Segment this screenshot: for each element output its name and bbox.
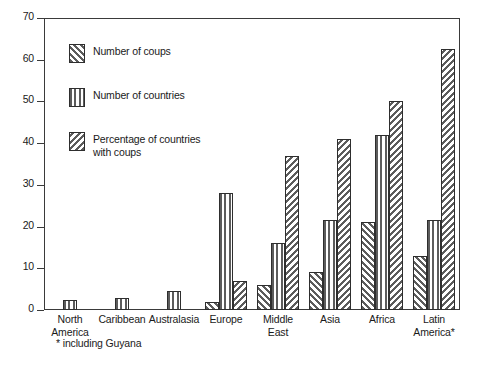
legend-swatch-forward-diagonal: [69, 44, 85, 63]
legend-label: Number of coups: [93, 45, 171, 58]
y-axis-tick-label: 20: [23, 220, 34, 231]
y-axis-tick-mark: [37, 227, 44, 228]
bar: [427, 220, 441, 310]
x-axis-label: Asia: [304, 313, 356, 326]
bar: [323, 220, 337, 310]
y-axis-tick-mark: [37, 268, 44, 269]
x-axis-label: North America: [44, 313, 96, 338]
bar: [309, 272, 323, 310]
y-axis-tick-mark: [37, 143, 44, 144]
legend-swatch-backward-diagonal: [69, 132, 85, 151]
y-axis-tick-mark: [37, 60, 44, 61]
bar: [361, 222, 375, 310]
bar-group: [309, 18, 351, 310]
y-axis-tick-mark: [37, 101, 44, 102]
bar: [167, 291, 181, 310]
y-axis-tick-mark: [37, 18, 44, 19]
y-axis-tick-label: 30: [23, 178, 34, 189]
bar: [115, 298, 129, 311]
x-axis-label: Africa: [356, 313, 408, 326]
y-axis-tick-label: 60: [23, 53, 34, 64]
x-axis-label: Caribbean: [96, 313, 148, 326]
bar: [233, 281, 247, 310]
bar-group: [413, 18, 455, 310]
y-axis-tick-label: 0: [28, 303, 34, 314]
x-axis-label: Europe: [200, 313, 252, 326]
x-axis-label: Middle East: [252, 313, 304, 338]
bar: [375, 135, 389, 310]
legend-label: Percentage of countries with coups: [93, 133, 200, 158]
bar: [389, 101, 403, 310]
y-axis-tick-label: 40: [23, 136, 34, 147]
legend-item: Percentage of countries with coups: [69, 132, 259, 154]
y-axis-tick-mark: [37, 185, 44, 186]
bar: [441, 49, 455, 310]
bar: [219, 193, 233, 310]
x-axis-label: Latin America*: [408, 313, 460, 338]
chart-legend: Number of coupsNumber of countriesPercen…: [69, 44, 259, 176]
legend-item: Number of countries: [69, 88, 259, 110]
y-axis-tick-label: 10: [23, 261, 34, 272]
legend-label: Number of countries: [93, 89, 185, 102]
bar-group: [361, 18, 403, 310]
bar: [63, 300, 77, 310]
chart-footnote: * including Guyana: [56, 337, 141, 349]
bar: [205, 302, 219, 310]
bar-group: [257, 18, 299, 310]
x-axis-label: Australasia: [148, 313, 200, 326]
bar: [271, 243, 285, 310]
legend-swatch-vertical-stripes: [69, 88, 85, 107]
bar: [285, 156, 299, 310]
y-axis-tick-label: 50: [23, 94, 34, 105]
bar: [257, 285, 271, 310]
bar: [413, 256, 427, 310]
bar: [337, 139, 351, 310]
y-axis-tick-label: 70: [23, 11, 34, 22]
y-axis: 010203040506070: [0, 0, 44, 310]
coups-bar-chart: 010203040506070 North AmericaCaribbeanAu…: [0, 0, 481, 365]
y-axis-tick-mark: [37, 310, 44, 311]
legend-item: Number of coups: [69, 44, 259, 66]
